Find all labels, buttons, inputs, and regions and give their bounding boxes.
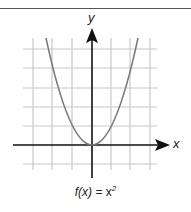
caption-eq: = x xyxy=(92,185,112,199)
function-caption: f(x) = x2 xyxy=(0,184,191,199)
parabola-graph xyxy=(0,0,191,212)
x-axis-label: x xyxy=(173,136,180,151)
grid xyxy=(23,38,157,170)
caption-exp: 2 xyxy=(112,184,116,193)
axes xyxy=(13,40,160,178)
caption-func: f(x) xyxy=(75,185,92,199)
y-axis-label: y xyxy=(88,10,95,25)
